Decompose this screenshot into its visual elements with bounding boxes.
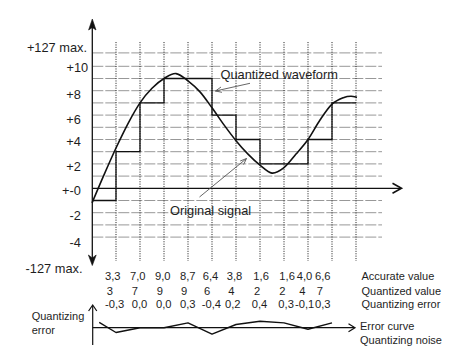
y-label-minus-4: -4 xyxy=(69,235,80,250)
table-cell: 0,3 xyxy=(315,298,331,310)
y-label-plus-8: +8 xyxy=(66,87,81,102)
table-cell: 7 xyxy=(132,285,138,297)
table-cell: 3,8 xyxy=(227,270,243,282)
annotation-quantized-waveform-label: Quantized waveform xyxy=(221,67,338,82)
annotation-original-signal-label: Original signal xyxy=(170,203,251,218)
table-row-error: -0,3 0,0 0,0 0,3 -0,4 0,2 0,4 0,3 -0,1 0… xyxy=(105,298,441,310)
row-label-accurate-value: Accurate value xyxy=(362,270,435,282)
quantizing-noise-label: Quantizing noise xyxy=(360,334,442,346)
error-plot-y-label-line2: error xyxy=(32,324,56,336)
y-label-plus-10: +10 xyxy=(67,60,89,75)
y-label-plus-6: +6 xyxy=(66,112,81,127)
table-cell: 7,0 xyxy=(130,270,146,282)
value-table: 3,3 7,0 9,0 8,7 6,4 3,8 1,6 1,6 4,0 6,6 … xyxy=(105,270,441,310)
table-cell: -0,3 xyxy=(105,298,124,310)
table-cell: 9,0 xyxy=(155,270,171,282)
y-label-minus-2: -2 xyxy=(69,208,80,223)
table-cell: 4 xyxy=(228,285,234,297)
table-cell: 1,6 xyxy=(279,270,295,282)
table-row-quantized: 3 7 9 9 6 4 2 2 4 7 Quantized value xyxy=(107,285,441,297)
row-label-quantized-value: Quantized value xyxy=(362,285,442,297)
table-cell: 9 xyxy=(157,285,163,297)
table-cell: 3,3 xyxy=(105,270,121,282)
table-row-accurate: 3,3 7,0 9,0 8,7 6,4 3,8 1,6 1,6 4,0 6,6 … xyxy=(105,270,434,282)
error-curve-label: Error curve xyxy=(360,320,414,332)
table-cell: 6,4 xyxy=(203,270,219,282)
table-cell: 3 xyxy=(107,285,113,297)
table-cell: 6 xyxy=(204,285,210,297)
main-axes xyxy=(88,19,401,266)
table-cell: 6,6 xyxy=(315,270,331,282)
y-label-max-positive: +127 max. xyxy=(27,40,87,55)
y-label-plus-4: +4 xyxy=(66,134,81,149)
table-cell: 2 xyxy=(279,285,285,297)
y-label-max-negative: -127 max. xyxy=(26,261,83,276)
table-cell: 0,2 xyxy=(225,298,241,310)
table-cell: 7 xyxy=(317,285,323,297)
table-cell: 0,3 xyxy=(180,298,196,310)
y-label-zero: +-0 xyxy=(62,183,81,198)
table-cell: -0,4 xyxy=(202,298,221,310)
table-cell: 8,7 xyxy=(180,270,196,282)
table-cell: 9 xyxy=(181,285,187,297)
table-cell: 4,0 xyxy=(297,270,313,282)
table-cell: 0,3 xyxy=(278,298,294,310)
y-axis-labels: +127 max. +10 +8 +6 +4 +2 +-0 -2 -4 -127… xyxy=(26,40,89,276)
table-cell: 0,0 xyxy=(156,298,172,310)
table-cell: 0,0 xyxy=(132,298,148,310)
table-cell: 0,4 xyxy=(252,298,268,310)
row-label-quantizing-error: Quantizing error xyxy=(362,298,441,310)
original-signal-path xyxy=(92,74,357,203)
quantization-figure: +127 max. +10 +8 +6 +4 +2 +-0 -2 -4 -127… xyxy=(0,0,465,363)
y-label-plus-2: +2 xyxy=(66,159,81,174)
table-cell: -0,1 xyxy=(295,298,314,310)
error-plot: Quantizing error Error curve Quantizing … xyxy=(32,305,442,346)
table-cell: 4 xyxy=(299,285,305,297)
table-cell: 1,6 xyxy=(253,270,269,282)
error-plot-y-label-line1: Quantizing xyxy=(32,310,85,322)
annotation-quantized-waveform: Quantized waveform xyxy=(216,67,338,92)
table-cell: 2 xyxy=(254,285,260,297)
original-signal-curve xyxy=(92,74,357,203)
